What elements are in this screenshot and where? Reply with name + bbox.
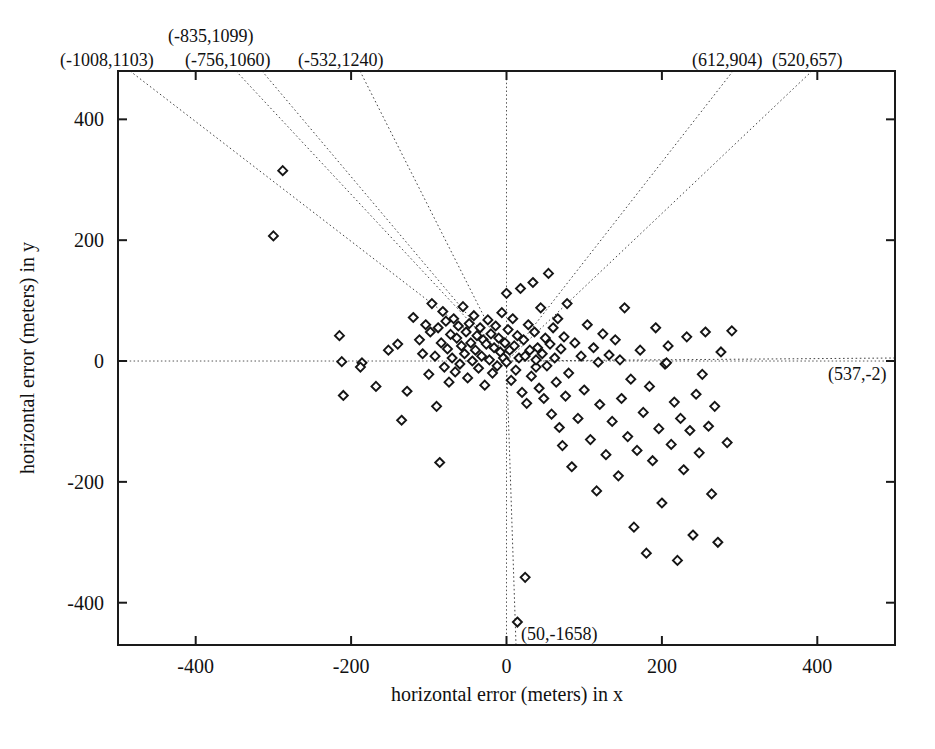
data-point	[623, 432, 632, 441]
data-point	[432, 402, 441, 411]
data-point	[727, 326, 736, 335]
data-point	[448, 354, 457, 363]
data-point	[278, 166, 287, 175]
data-point	[522, 399, 531, 408]
callout-label-0: (-1008,1103)	[60, 50, 154, 71]
data-point	[504, 325, 513, 334]
data-point	[645, 382, 654, 391]
data-point	[639, 408, 648, 417]
data-point	[558, 441, 567, 450]
callout-label-6: (537,-2)	[828, 364, 886, 385]
data-point	[384, 346, 393, 355]
data-point	[544, 269, 553, 278]
data-point	[549, 323, 558, 332]
data-point	[542, 361, 551, 370]
data-point	[664, 341, 673, 350]
data-point	[427, 299, 436, 308]
data-point	[573, 414, 582, 423]
data-point	[463, 373, 472, 382]
data-point	[716, 347, 725, 356]
data-point	[555, 423, 564, 432]
data-point	[418, 349, 427, 358]
data-point	[371, 382, 380, 391]
data-point	[269, 231, 278, 240]
data-point	[648, 456, 657, 465]
y-tick-label-4: -400	[67, 592, 104, 614]
data-point	[409, 313, 418, 322]
data-point	[561, 392, 570, 401]
data-point	[511, 366, 520, 375]
data-point	[633, 446, 642, 455]
data-point	[435, 458, 444, 467]
data-point	[642, 549, 651, 558]
data-point	[614, 471, 623, 480]
data-point	[654, 424, 663, 433]
data-point	[536, 303, 545, 312]
data-point	[682, 332, 691, 341]
data-point	[431, 352, 440, 361]
data-point	[723, 438, 732, 447]
data-point	[397, 416, 406, 425]
data-point	[518, 388, 527, 397]
callout-label-2: (-756,1060)	[185, 50, 270, 71]
leader-line-2	[262, 71, 507, 361]
data-point	[393, 340, 402, 349]
data-point	[598, 329, 607, 338]
data-point	[704, 422, 713, 431]
callout-label-1: (-835,1099)	[168, 26, 253, 47]
x-tick-label-1: -200	[333, 655, 370, 677]
data-point	[524, 320, 533, 329]
data-point	[415, 335, 424, 344]
data-point	[692, 390, 701, 399]
plot-canvas: -400-20002004004002000-200-400 (-1008,11…	[0, 0, 935, 749]
data-point	[535, 384, 544, 393]
data-point	[701, 328, 710, 337]
data-point	[553, 314, 562, 323]
data-point	[667, 440, 676, 449]
data-point	[527, 372, 536, 381]
x-tick-label-2: 0	[502, 655, 512, 677]
data-point	[530, 328, 539, 337]
data-point	[570, 338, 579, 347]
data-point	[567, 462, 576, 471]
data-point	[605, 350, 614, 359]
data-point	[657, 499, 666, 508]
data-point	[676, 414, 685, 423]
data-point	[583, 320, 592, 329]
data-point	[626, 375, 635, 384]
leader-line-4	[507, 71, 734, 361]
data-point	[636, 346, 645, 355]
data-point	[611, 335, 620, 344]
data-point	[615, 355, 624, 364]
data-point	[698, 370, 707, 379]
data-point	[403, 387, 412, 396]
data-point	[532, 355, 541, 364]
x-tick-label-3: 200	[647, 655, 677, 677]
data-point	[337, 357, 346, 366]
data-point	[695, 448, 704, 457]
data-point	[451, 367, 460, 376]
data-point	[685, 426, 694, 435]
data-point	[521, 573, 530, 582]
scatter-figure: -400-20002004004002000-200-400 (-1008,11…	[0, 0, 935, 749]
data-point	[480, 381, 489, 390]
data-point	[617, 394, 626, 403]
data-point	[528, 278, 537, 287]
data-point	[564, 369, 573, 378]
data-point	[592, 486, 601, 495]
data-point	[559, 332, 568, 341]
data-point	[679, 465, 688, 474]
data-point	[424, 370, 433, 379]
data-point	[502, 289, 511, 298]
callout-leader-lines	[130, 71, 895, 645]
data-point	[589, 343, 598, 352]
data-point	[601, 450, 610, 459]
y-tick-label-1: 200	[74, 229, 104, 251]
x-tick-label-0: -400	[177, 655, 214, 677]
data-point	[483, 315, 492, 324]
data-point	[507, 376, 516, 385]
data-point	[577, 352, 586, 361]
data-point	[713, 538, 722, 547]
data-point	[707, 489, 716, 498]
data-point	[595, 400, 604, 409]
